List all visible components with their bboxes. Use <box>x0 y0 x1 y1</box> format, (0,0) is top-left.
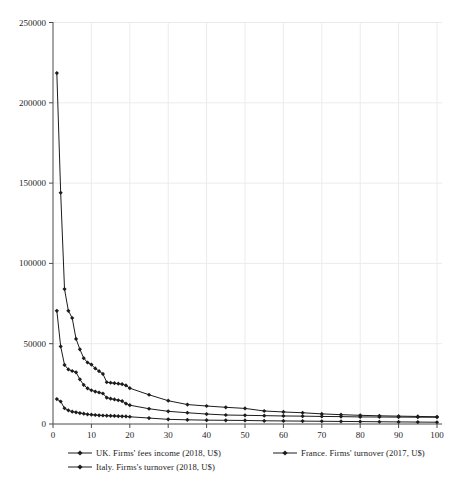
legend-marker-uk-icon <box>68 449 92 457</box>
legend-marker-italy-icon <box>68 463 92 471</box>
svg-text:80: 80 <box>356 430 366 440</box>
svg-text:30: 30 <box>164 430 174 440</box>
legend-item-italy: Italy. Firms's turnover (2018, U$) <box>68 462 273 472</box>
svg-text:50: 50 <box>241 430 251 440</box>
line-chart-svg: 0500001000001500002000002500000102030405… <box>0 0 462 445</box>
legend-label-france: France. Firms' turnover (2017, U$) <box>301 448 425 458</box>
svg-text:100: 100 <box>430 430 444 440</box>
svg-text:50000: 50000 <box>24 339 47 349</box>
legend-item-france: France. Firms' turnover (2017, U$) <box>273 448 448 458</box>
svg-text:150000: 150000 <box>19 178 47 188</box>
legend-label-uk: UK. Firms' fees income (2018, U$) <box>96 448 221 458</box>
svg-text:20: 20 <box>125 430 135 440</box>
svg-text:10: 10 <box>87 430 97 440</box>
svg-text:100000: 100000 <box>19 258 47 268</box>
svg-text:70: 70 <box>317 430 327 440</box>
line-chart-plot-area: 0500001000001500002000002500000102030405… <box>0 0 462 445</box>
legend-marker-france-icon <box>273 449 297 457</box>
legend-label-italy: Italy. Firms's turnover (2018, U$) <box>96 462 215 472</box>
legend-item-uk: UK. Firms' fees income (2018, U$) <box>68 448 273 458</box>
svg-text:0: 0 <box>42 419 47 429</box>
svg-text:40: 40 <box>202 430 212 440</box>
svg-text:60: 60 <box>279 430 289 440</box>
svg-text:200000: 200000 <box>19 98 47 108</box>
chart-legend: UK. Firms' fees income (2018, U$) France… <box>68 446 448 474</box>
svg-text:90: 90 <box>394 430 404 440</box>
svg-text:0: 0 <box>51 430 56 440</box>
chart-canvas: 0500001000001500002000002500000102030405… <box>0 0 462 487</box>
svg-text:250000: 250000 <box>19 18 47 28</box>
